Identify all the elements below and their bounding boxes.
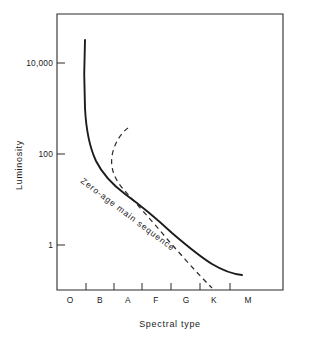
figure-background: [0, 0, 310, 339]
hr-diagram-figure: 10,000 100 1 Luminosity O B A F G K M Sp: [0, 0, 310, 339]
y-tick-label-1: 1: [48, 240, 53, 250]
y-tick-label-10000: 10,000: [26, 58, 53, 68]
y-axis-title-group: Luminosity: [14, 140, 24, 190]
x-tick-label-M: M: [244, 295, 251, 305]
x-tick-label-K: K: [211, 295, 217, 305]
y-tick-label-100: 100: [38, 149, 53, 159]
x-tick-label-B: B: [97, 295, 103, 305]
x-tick-label-A: A: [125, 295, 131, 305]
y-axis-title: Luminosity: [14, 140, 24, 190]
x-tick-label-G: G: [183, 295, 190, 305]
x-axis-title: Spectral type: [139, 319, 201, 329]
chart-svg: 10,000 100 1 Luminosity O B A F G K M Sp: [0, 0, 310, 339]
x-tick-label-O: O: [67, 295, 74, 305]
x-tick-label-F: F: [153, 295, 158, 305]
